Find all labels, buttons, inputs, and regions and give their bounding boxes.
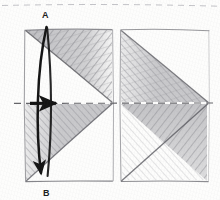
right-square <box>120 29 209 181</box>
vertex-label-a: A <box>42 11 49 20</box>
sketch-canvas: A B <box>0 0 220 200</box>
fold-diagram-svg <box>0 0 220 200</box>
vertex-label-b: B <box>43 189 50 198</box>
top-dashed-guide <box>2 5 218 7</box>
